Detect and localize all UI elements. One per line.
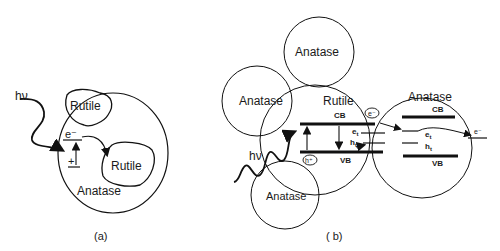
anatase-cb-label: CB: [432, 105, 444, 114]
electron-transfer-arrow: [82, 136, 107, 155]
anatase-et-label: et: [425, 130, 431, 140]
photon-label-a: hν: [15, 89, 28, 103]
anatase-top-label: Anatase: [295, 45, 339, 59]
electron-label-a: e⁻: [65, 128, 77, 140]
anatase-right-particle: [372, 98, 472, 198]
rutile-ht-label: ht: [350, 138, 357, 148]
caption-a: (a): [94, 230, 107, 242]
photon-wave-a: [20, 99, 62, 150]
rutile-et-label: et: [352, 127, 358, 137]
anatase-electron-out-label: e⁻: [474, 128, 482, 135]
anatase-left-label: Anatase: [239, 94, 283, 108]
panel-b: Anatase Anatase Anatase Rutile CB VB et …: [222, 17, 487, 242]
hole-trap-arrow: [356, 145, 364, 147]
anatase-ht-label: ht: [425, 142, 432, 152]
rutile-top-label: Rutile: [70, 99, 101, 113]
electron-bubble-label: e⁻: [368, 110, 376, 117]
caption-b: ( b): [326, 230, 343, 242]
hole-bubble-label: h⁺: [305, 157, 313, 164]
interparticle-electron-arrow: [380, 123, 400, 129]
rutile-center-label: Rutile: [323, 94, 354, 108]
rutile-cb-label: CB: [334, 111, 346, 120]
anatase-vb-label: VB: [432, 159, 443, 168]
anatase-bottom-label: Anatase: [266, 190, 306, 202]
photon-wave-b: [234, 132, 294, 182]
photon-label-b: hν: [249, 149, 262, 163]
anatase-right-label: Anatase: [408, 90, 452, 104]
rutile-bottom-label: Rutile: [111, 159, 142, 173]
panel-a: e⁻ + hν Rutile Rutile Anatase (a): [15, 89, 168, 242]
hole-label-a: +: [68, 155, 74, 167]
diagram-canvas: e⁻ + hν Rutile Rutile Anatase (a) Anatas…: [0, 0, 500, 251]
rutile-vb-label: VB: [340, 156, 351, 165]
anatase-outer-label: Anatase: [77, 184, 121, 198]
